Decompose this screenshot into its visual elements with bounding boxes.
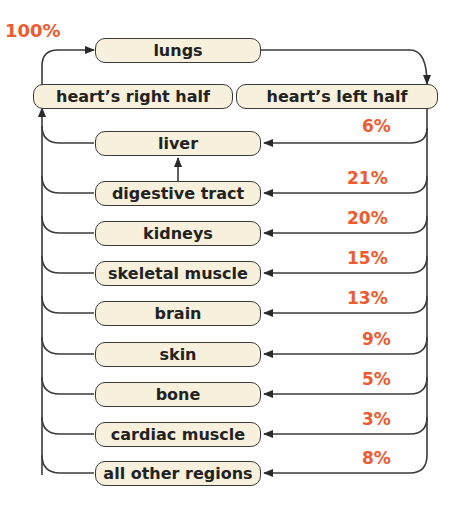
- percent-brain: 13%: [347, 288, 388, 308]
- organ-box-liver: liver: [95, 131, 261, 156]
- organ-box-skeletal-muscle: skeletal muscle: [95, 261, 261, 286]
- percent-digestive-tract: 21%: [347, 168, 388, 188]
- total-percent-label: 100%: [5, 20, 61, 41]
- percent-skeletal-muscle: 15%: [347, 248, 388, 268]
- organ-box-all-other-regions: all other regions: [95, 461, 261, 486]
- percent-all-other-regions: 8%: [362, 448, 391, 468]
- percent-cardiac-muscle: 3%: [362, 409, 391, 429]
- heart-right-half-box: heart’s right half: [33, 84, 233, 109]
- organ-box-cardiac-muscle: cardiac muscle: [95, 422, 261, 447]
- heart-left-half-box: heart’s left half: [236, 84, 438, 109]
- percent-kidneys: 20%: [347, 208, 388, 228]
- organ-box-digestive-tract: digestive tract: [95, 181, 261, 206]
- organ-box-brain: brain: [95, 301, 261, 326]
- organ-box-skin: skin: [95, 342, 261, 367]
- lungs-box: lungs: [95, 38, 261, 63]
- percent-bone: 5%: [362, 369, 391, 389]
- organ-box-bone: bone: [95, 382, 261, 407]
- percent-skin: 9%: [362, 329, 391, 349]
- percent-liver: 6%: [362, 116, 391, 136]
- organ-box-kidneys: kidneys: [95, 221, 261, 246]
